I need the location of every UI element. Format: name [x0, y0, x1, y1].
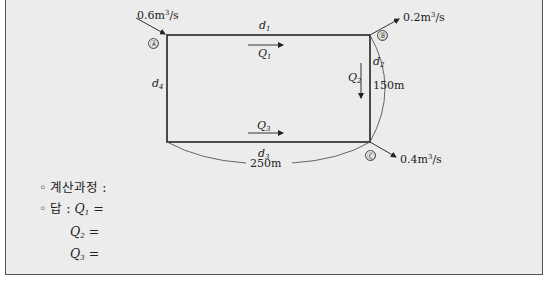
outflow-c-label: 0.4m3/s: [400, 154, 442, 165]
width-dimension-arc-left: [167, 142, 246, 163]
answer-q1: ◦ 답 : Q1 =: [39, 203, 104, 217]
pipe-d2-label: d2: [373, 56, 385, 69]
node-b: Ⓑ: [377, 30, 388, 41]
answer-q2: Q2 =: [70, 226, 99, 240]
node-a: Ⓐ: [148, 38, 159, 49]
pipe-network-diagram: [0, 0, 547, 283]
q3-label: Q3: [257, 120, 271, 133]
inflow-a-label: 0.6m3/s: [137, 10, 179, 21]
outflow-b-label: 0.2m3/s: [403, 12, 445, 23]
answer-q3: Q3 =: [70, 248, 99, 262]
pipe-d1-label: d1: [259, 20, 271, 33]
pipe-d4-label: d4: [152, 78, 164, 91]
process-label: ◦ 계산과정 :: [39, 182, 107, 195]
node-c: Ⓒ: [365, 150, 376, 161]
width-dimension-arc-right: [292, 142, 370, 163]
q2-label: Q2: [348, 72, 362, 85]
width-dimension-label: 250m: [250, 158, 281, 169]
q1-label: Q1: [258, 48, 272, 61]
height-dimension-label: 150m: [373, 80, 404, 91]
